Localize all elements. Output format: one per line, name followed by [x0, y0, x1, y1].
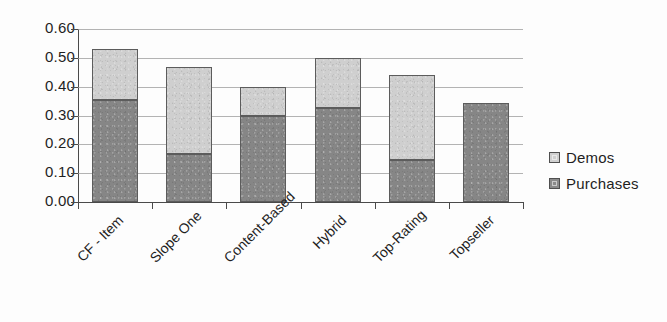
x-tick-mark — [523, 202, 524, 209]
y-tick-mark — [71, 144, 78, 145]
y-tick-mark — [71, 87, 78, 88]
y-tick-label: 0.20 — [11, 134, 75, 151]
y-tick-label: 0.50 — [11, 48, 75, 65]
gridline — [78, 144, 523, 145]
y-tick-mark — [71, 173, 78, 174]
legend-swatch-icon — [549, 152, 560, 163]
gridline — [78, 87, 523, 88]
y-tick-label: 0.10 — [11, 163, 75, 180]
legend-label: Purchases — [566, 175, 639, 192]
x-tick-label: Hybrid — [295, 212, 349, 266]
bar-stack — [92, 29, 138, 202]
legend-label: Demos — [566, 149, 615, 166]
x-tick-mark — [375, 202, 376, 209]
y-tick-mark — [71, 202, 78, 203]
bar-segment-demos — [240, 87, 286, 116]
gridline — [78, 58, 523, 59]
legend-swatch-icon — [549, 178, 560, 189]
x-tick-label: CF - Item — [73, 212, 127, 266]
legend-item: Demos — [549, 144, 639, 170]
gridline — [78, 116, 523, 117]
bar-stack — [315, 29, 361, 202]
x-tick-mark — [449, 202, 450, 209]
x-tick-mark — [301, 202, 302, 209]
gridline — [78, 173, 523, 174]
x-tick-label: Slope One — [147, 212, 201, 266]
bar-segment-purchases — [389, 160, 435, 202]
bar-stack — [389, 29, 435, 202]
bar-segment-demos — [166, 67, 212, 155]
legend: DemosPurchases — [549, 144, 639, 196]
bar-segment-purchases — [315, 108, 361, 202]
bar-segment-demos — [92, 49, 138, 99]
x-tick-label: Top-Rating — [369, 212, 423, 266]
bar-segment-purchases — [166, 154, 212, 202]
y-tick-mark — [71, 58, 78, 59]
bar-segment-purchases — [240, 116, 286, 203]
bar-segment-purchases — [463, 103, 509, 202]
plot-area — [78, 29, 523, 202]
y-tick-label: 0.60 — [11, 19, 75, 36]
y-tick-mark — [71, 29, 78, 30]
legend-item: Purchases — [549, 170, 639, 196]
bar-stack — [463, 29, 509, 202]
x-tick-mark — [226, 202, 227, 209]
chart-figure: 0.600.500.400.300.200.100.00 CF - ItemSl… — [0, 0, 667, 322]
gridline — [78, 29, 523, 30]
x-tick-mark — [152, 202, 153, 209]
y-tick-label: 0.40 — [11, 77, 75, 94]
bar-segment-demos — [389, 75, 435, 160]
bar-stack — [166, 29, 212, 202]
y-tick-label: 0.30 — [11, 106, 75, 123]
x-tick-label: Content-Based — [221, 212, 275, 266]
x-tick-mark — [78, 202, 79, 209]
bar-segment-demos — [315, 58, 361, 108]
x-tick-label: Topseller — [443, 212, 497, 266]
bar-stack — [240, 29, 286, 202]
y-tick-mark — [71, 116, 78, 117]
bar-segment-purchases — [92, 100, 138, 202]
y-tick-label: 0.00 — [11, 192, 75, 209]
